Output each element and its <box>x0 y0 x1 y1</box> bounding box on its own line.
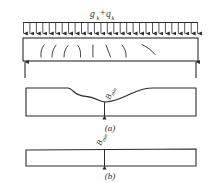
caption-a: (a) <box>105 123 116 133</box>
load-label-q-subscript: k <box>112 15 115 21</box>
support-reactions-group <box>25 62 196 78</box>
load-label-q: q <box>106 9 111 19</box>
caption-b: (b) <box>105 171 116 181</box>
load-label-g: g <box>90 9 95 19</box>
distributed-load-arrows <box>24 23 198 34</box>
beam-diagram-svg: g k + q k <box>0 0 221 183</box>
crack-mark <box>142 45 155 55</box>
crack-mark <box>52 45 56 57</box>
bmin-label-group-a: B min <box>104 85 118 101</box>
bmin-label-subscript-b: min <box>100 132 109 142</box>
crack-mark <box>78 46 81 58</box>
top-panel-group: g k + q k <box>23 8 198 79</box>
bottom-panel-group: B min (b) <box>26 131 196 181</box>
crack-mark <box>41 45 44 57</box>
beam-rectangle <box>23 38 198 61</box>
crack-mark <box>122 45 126 57</box>
load-label-plus: + <box>100 8 106 18</box>
crack-marks-group <box>41 45 155 58</box>
middle-panel-group: B min (a) <box>26 85 196 133</box>
slab-plan-b-outline <box>26 149 196 166</box>
figure-container: g k + q k <box>0 0 221 183</box>
bmin-label-subscript-a: min <box>109 86 118 96</box>
crack-mark <box>106 45 111 57</box>
bmin-label-group-b: B min <box>95 131 109 147</box>
crack-mark <box>64 46 68 58</box>
load-label-group: g k + q k <box>90 8 115 21</box>
